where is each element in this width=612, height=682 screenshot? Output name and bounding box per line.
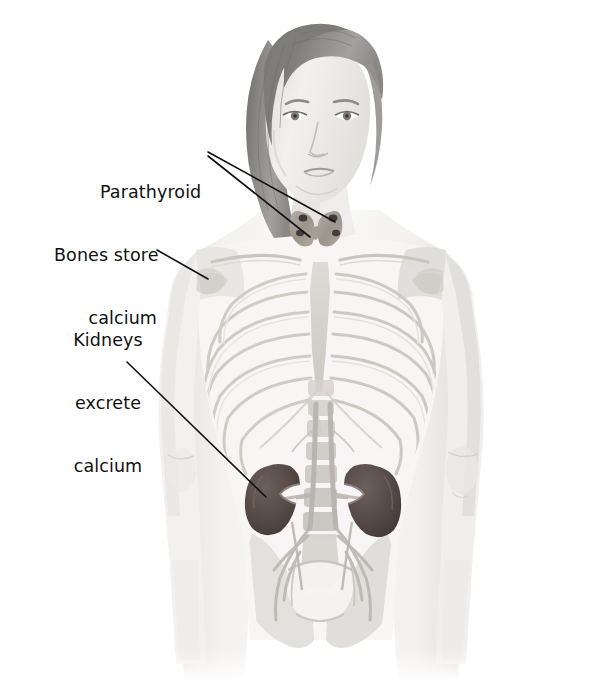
label-parathyroid-line-1: Parathyroid — [100, 182, 201, 203]
label-kidneys-line-3: calcium — [60, 456, 156, 477]
label-kidneys-line-2: excrete — [60, 393, 156, 414]
anatomical-illustration: Parathyroid Bones store calcium Kidneys … — [0, 0, 612, 682]
label-kidneys-excrete-calcium: Kidneys excrete calcium — [60, 288, 156, 519]
label-kidneys-line-1: Kidneys — [60, 330, 156, 351]
label-bones-line-1: Bones store — [54, 245, 157, 266]
